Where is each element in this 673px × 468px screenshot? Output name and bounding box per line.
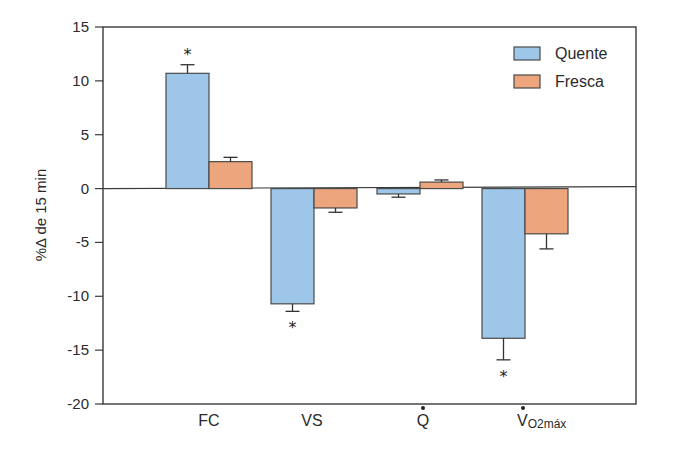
bar-quente bbox=[482, 189, 525, 339]
legend-label-quente: Quente bbox=[555, 45, 608, 62]
bar-quente bbox=[377, 189, 420, 194]
x-category-label: VS bbox=[301, 412, 322, 429]
significance-asterisk: * bbox=[500, 367, 508, 386]
y-axis-label: %Δ de 15 min bbox=[32, 169, 49, 262]
bar-fresca bbox=[314, 189, 357, 208]
y-tick-label: -5 bbox=[76, 233, 89, 250]
bar-fresca bbox=[420, 182, 463, 188]
x-category-label: FC bbox=[198, 412, 219, 429]
bar-chart: 151050-5-10-15-20FCVSQVO2máx *** QuenteF… bbox=[0, 0, 673, 468]
y-tick-label: 0 bbox=[81, 180, 89, 197]
significance-asterisk: * bbox=[184, 45, 192, 64]
legend-swatch-quente bbox=[514, 47, 540, 60]
y-tick-label: 5 bbox=[81, 126, 89, 143]
x-category-label: Q bbox=[417, 412, 429, 429]
legend-swatch-fresca bbox=[514, 75, 540, 88]
legend-label-fresca: Fresca bbox=[555, 73, 604, 90]
dot-notation-icon bbox=[421, 406, 425, 410]
y-tick-label: 15 bbox=[72, 18, 89, 35]
bar-quente bbox=[166, 73, 209, 188]
x-category-label: VO2máx bbox=[517, 412, 566, 431]
bar-quente bbox=[271, 189, 314, 304]
significance-asterisk: * bbox=[289, 318, 297, 337]
y-tick-label: -10 bbox=[67, 287, 89, 304]
y-tick-label: -15 bbox=[67, 341, 89, 358]
dot-notation-icon bbox=[521, 406, 525, 410]
bar-fresca bbox=[209, 162, 252, 189]
bar-fresca bbox=[525, 189, 568, 234]
legend: QuenteFresca bbox=[514, 45, 608, 90]
bars: *** bbox=[166, 45, 568, 386]
y-tick-label: 10 bbox=[72, 72, 89, 89]
y-tick-label: -20 bbox=[67, 395, 89, 412]
